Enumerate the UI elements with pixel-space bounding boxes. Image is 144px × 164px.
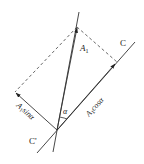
sin-component-label: A1sinα xyxy=(14,100,37,122)
projection-diagram: A1 C C' α A1sinα A1cosα xyxy=(0,0,144,164)
vector-a1-label: A1 xyxy=(79,43,89,54)
angle-arc xyxy=(60,117,68,119)
angle-alpha-label: α xyxy=(63,107,68,116)
dashed-to-sin xyxy=(15,27,77,92)
cos-component-arrow xyxy=(57,64,115,130)
axis-c-prime-label: C' xyxy=(29,136,37,146)
axis-c-label: C xyxy=(120,38,126,48)
cos-component-label: A1cosα xyxy=(83,95,106,119)
